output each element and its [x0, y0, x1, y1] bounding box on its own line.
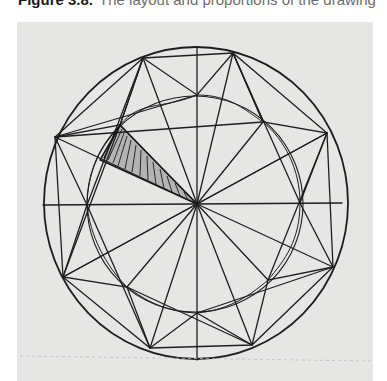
figure-image: [17, 22, 373, 381]
figure-caption: Figure 3.8.The layout and proportions of…: [18, 0, 376, 7]
figure-label: Figure 3.8.: [18, 0, 93, 8]
geometric-drawing: [17, 22, 373, 381]
figure-caption-text: The layout and proportions of the drawin…: [99, 0, 376, 8]
